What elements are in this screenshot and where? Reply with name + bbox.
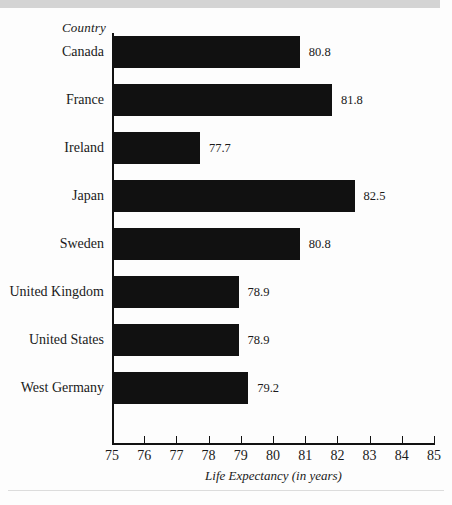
bar-row: Sweden80.8 [0,228,452,276]
bar-row: West Germany79.2 [0,372,452,420]
category-label: United States [0,324,104,356]
bar-row: France81.8 [0,84,452,132]
x-axis-tick [112,436,113,443]
bar [113,132,200,164]
x-axis-tick-label: 84 [387,448,417,464]
x-axis-tick [209,436,210,443]
bar [113,228,300,260]
bar-row: Japan82.5 [0,180,452,228]
x-axis-tick-label: 79 [226,448,256,464]
bar-row: United States78.9 [0,324,452,372]
x-axis-tick-label: 80 [258,448,288,464]
bar-value-label: 78.9 [248,276,270,308]
bar-value-label: 77.7 [209,132,231,164]
x-axis-tick-label: 78 [194,448,224,464]
category-label: Japan [0,180,104,212]
x-axis-tick [273,436,274,443]
x-axis-tick [241,436,242,443]
bar [113,180,355,212]
x-axis-tick-label: 76 [129,448,159,464]
y-axis-title: Country [62,20,106,36]
x-axis-tick [337,436,338,443]
category-label: Canada [0,36,104,68]
bar [113,372,248,404]
x-axis-tick-label: 83 [355,448,385,464]
category-label: Ireland [0,132,104,164]
category-label: West Germany [0,372,104,404]
category-label: Sweden [0,228,104,260]
bar [113,36,300,68]
x-axis-tick [144,436,145,443]
bar [113,324,239,356]
category-label: United Kingdom [0,276,104,308]
x-axis-tick [370,436,371,443]
bar-value-label: 79.2 [257,372,279,404]
bar [113,276,239,308]
bar-value-label: 80.8 [309,228,331,260]
bar-chart-figure: Country Canada80.8France81.8Ireland77.7J… [0,0,452,505]
bar-row: United Kingdom78.9 [0,276,452,324]
x-axis-tick [402,436,403,443]
x-axis-tick-label: 75 [97,448,127,464]
bar [113,84,332,116]
x-axis-tick-label: 81 [290,448,320,464]
category-label: France [0,84,104,116]
bar-row: Ireland77.7 [0,132,452,180]
x-axis-tick [176,436,177,443]
x-axis-tick [434,436,435,443]
x-axis-tick [305,436,306,443]
bar-value-label: 81.8 [341,84,363,116]
x-axis-title: Life Expectancy (in years) [112,468,435,484]
bar-value-label: 78.9 [248,324,270,356]
x-axis-tick-label: 85 [419,448,449,464]
footer-divider [8,490,444,491]
bar-value-label: 82.5 [364,180,386,212]
x-axis-tick-label: 77 [161,448,191,464]
x-axis-tick-label: 82 [322,448,352,464]
bar-value-label: 80.8 [309,36,331,68]
x-axis-line [112,443,435,445]
bar-row: Canada80.8 [0,36,452,84]
